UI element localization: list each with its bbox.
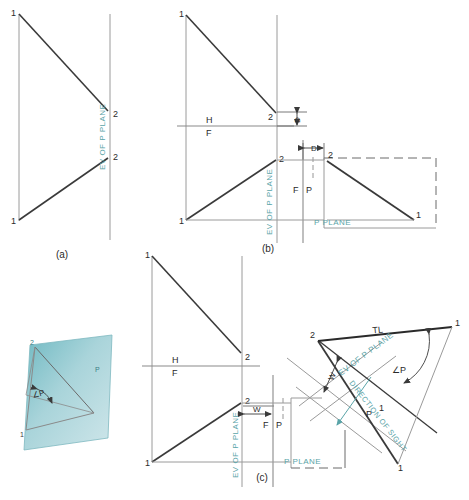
pictorial-illustration: ∠P 2 1 P bbox=[20, 335, 112, 450]
panel-c-fold-label-fp-p: P bbox=[276, 420, 282, 430]
panel-c-topview-label-2: 2 bbox=[245, 352, 250, 362]
panel-b-fold-label-fp-p: P bbox=[306, 185, 312, 195]
panel-b-topview-label-1: 1 bbox=[179, 9, 184, 19]
panel-b-topview-label-2: 2 bbox=[268, 112, 273, 122]
panel-b-p-plane-label: P PLANE bbox=[314, 218, 351, 227]
panel-a-topview-label-1: 1 bbox=[11, 8, 16, 18]
panel-c-dim-w-label: W bbox=[253, 405, 261, 414]
panel-c-topview-label-1: 1 bbox=[145, 250, 150, 260]
panel-c-caption: (c) bbox=[256, 472, 268, 483]
panel-a-frontview-label-2: 2 bbox=[113, 152, 118, 162]
panel-c-ev-of-p-plane-label: EV OF P PLANE bbox=[231, 412, 240, 478]
panel-a-ev-of-p-plane-label: EV OF P PLANE bbox=[98, 104, 107, 170]
panel-a-frontview-label-1: 1 bbox=[11, 216, 16, 226]
panel-c-frontview-label-1: 1 bbox=[145, 458, 150, 468]
panel-b-profileview-label-1: 1 bbox=[416, 210, 421, 220]
panel-b-frontview-label-1: 1 bbox=[179, 216, 184, 226]
panel-c-fold-label-f: F bbox=[172, 368, 178, 378]
panel-b-dim-d-vertical-label: D bbox=[293, 117, 302, 123]
panel-b-frontview-label-2: 2 bbox=[279, 154, 284, 164]
panel-c-rot-label-1b: 1 bbox=[398, 463, 403, 473]
panel-b-caption: (b) bbox=[262, 243, 274, 254]
pictorial-label-1: 1 bbox=[20, 431, 24, 438]
panel-b-ev-of-p-plane-label: EV OF P PLANE bbox=[265, 169, 274, 235]
panel-c-rot-p-mark-tick: 1 bbox=[379, 403, 384, 413]
panel-b-fold-label-fp-f: F bbox=[293, 185, 299, 195]
panel-c-rot-label-1: 1 bbox=[455, 318, 460, 328]
panel-c-true-length-label: TL bbox=[372, 324, 384, 335]
panel-c-fold-label-h: H bbox=[172, 355, 179, 365]
panel-b-dim-d-horizontal-label: D bbox=[311, 144, 317, 153]
panel-c-angle-p-label: ∠P bbox=[392, 365, 406, 375]
panel-a-caption: (a) bbox=[56, 249, 68, 260]
panel-c-rot-label-2: 2 bbox=[310, 330, 315, 340]
descriptive-geometry-figure: 1 2 1 2 EV OF P PLANE (a) H F 1 2 D 1 2 … bbox=[0, 0, 469, 500]
panel-c-fold-label-fp-f: F bbox=[263, 420, 269, 430]
panel-c-p-plane-label: P PLANE bbox=[284, 457, 321, 466]
panel-c-rot-p-mark: P bbox=[366, 409, 372, 419]
pictorial-plane-label: P bbox=[95, 366, 100, 373]
panel-b-profileview-label-2: 2 bbox=[328, 150, 333, 160]
panel-a-topview-label-2: 2 bbox=[113, 109, 118, 119]
panel-b-fold-label-f: F bbox=[206, 128, 212, 138]
panel-b-fold-label-h: H bbox=[206, 115, 213, 125]
pictorial-label-2: 2 bbox=[30, 339, 34, 346]
panel-c-frontview-label-2: 2 bbox=[245, 396, 250, 406]
